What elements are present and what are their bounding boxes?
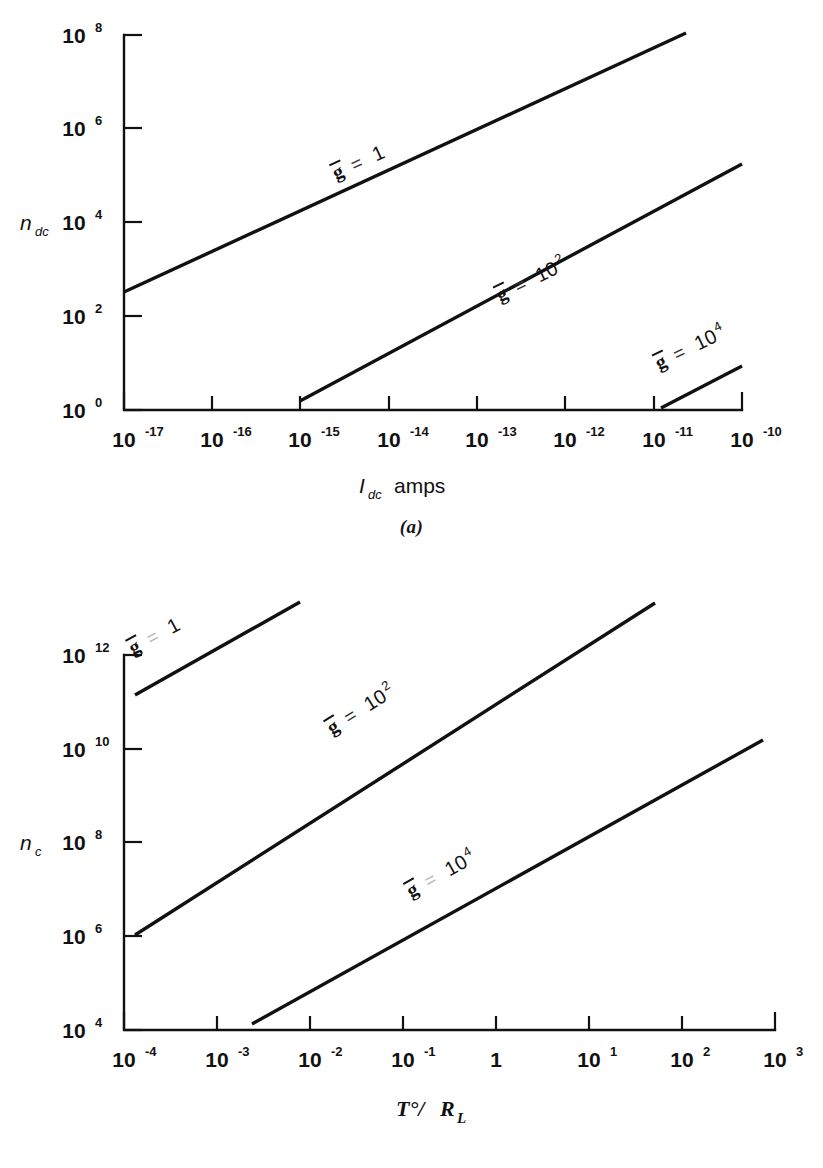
panel-b-ytick-exponent: 4 (95, 1015, 103, 1030)
panel-a-label-equals: = (347, 152, 366, 176)
panel-b-label-equals: = (420, 868, 440, 892)
panel-a-y-axis-title-symbol: n (20, 211, 32, 234)
panel-a-label-equals: = (511, 273, 530, 297)
panel-b-x-axis-title-resistance-subscript: L (456, 1110, 466, 1126)
panel-a-xtick-mantissa: 10 (642, 428, 665, 451)
panel-a-ytick-mantissa: 10 (62, 305, 85, 328)
panel-b-curve-g1 (135, 602, 300, 695)
figure-page: 10 8 10 6 10 4 10 2 10 0 10 -17 10 -16 1… (0, 0, 823, 1168)
panel-b-x-ticklabels: 10 -4 10 -3 10 -2 10 -1 1 10 1 10 2 10 3 (112, 1044, 803, 1071)
panel-a-xtick-exponent: -12 (586, 424, 605, 439)
panel-b-ytick-exponent: 8 (95, 827, 102, 842)
panel-a-ytick-exponent: 6 (95, 113, 102, 128)
panel-b-label-equals: = (340, 704, 361, 728)
panel-a-chart: 10 8 10 6 10 4 10 2 10 0 10 -17 10 -16 1… (0, 0, 823, 560)
panel-a-xtick-mantissa: 10 (730, 428, 753, 451)
panel-a-ytick-exponent: 8 (95, 20, 102, 35)
panel-a-xtick-exponent: -10 (763, 424, 782, 439)
panel-b-xtick-exponent: -4 (145, 1044, 157, 1059)
panel-b-label-value: 1 (163, 613, 183, 638)
panel-b-label-equals: = (143, 625, 163, 649)
panel-b-xtick-mantissa: 10 (298, 1048, 321, 1071)
panel-a-ytick-exponent: 0 (95, 395, 102, 410)
panel-b-x-ticks (124, 1012, 775, 1030)
panel-a-label-equals: = (670, 341, 689, 365)
panel-b-ytick-exponent: 10 (95, 734, 109, 749)
panel-b-xtick-mantissa: 10 (112, 1048, 135, 1071)
panel-a-y-ticks (124, 35, 142, 410)
panel-b-axes (124, 655, 775, 1030)
panel-b-xtick-mantissa: 10 (577, 1048, 600, 1071)
panel-a-x-axis-title-symbol: I (359, 474, 365, 497)
panel-a-curves (124, 33, 742, 408)
panel-a-xtick-mantissa: 10 (465, 428, 488, 451)
panel-a-curve-g1 (124, 33, 686, 292)
panel-b-label-g-symbol: g (402, 877, 422, 902)
panel-a-label-g-symbol: g (651, 349, 670, 374)
panel-a-xtick-exponent: -17 (145, 424, 164, 439)
panel-b-ytick-mantissa: 10 (62, 1019, 85, 1042)
panel-b-x-axis-title-temp: T°/ (396, 1096, 426, 1121)
panel-b-y-ticks (124, 655, 142, 1030)
panel-b-xtick-mantissa: 10 (391, 1048, 414, 1071)
panel-b-y-axis-title: n c (20, 831, 42, 859)
panel-a-ytick-mantissa: 10 (62, 399, 85, 422)
panel-a-x-ticklabels: 10 -17 10 -16 10 -15 10 -14 10 -13 10 -1… (112, 424, 781, 451)
panel-b-ytick-exponent: 12 (95, 640, 109, 655)
panel-b-curves (135, 602, 763, 1024)
panel-b-x-axis-title-resistance: R (439, 1096, 455, 1121)
panel-a-x-ticks (124, 392, 742, 410)
panel-b-ytick-mantissa: 10 (62, 644, 85, 667)
panel-a-y-axis-title: n dc (20, 211, 49, 239)
panel-b-xtick-exponent: -3 (238, 1044, 250, 1059)
panel-b-xtick-mantissa: 10 (670, 1048, 693, 1071)
panel-b-y-axis-title-symbol: n (20, 831, 32, 854)
panel-b-x-axis-title: T°/ R L (396, 1096, 466, 1126)
panel-b-curve-label-g1e4: g = 10 4 (401, 843, 479, 902)
panel-b-curve-label-g1: g = 1 (125, 613, 184, 659)
panel-b-label-g-symbol: g (322, 714, 343, 739)
panel-b-curve-g1e4 (252, 740, 763, 1024)
panel-b-ytick-mantissa: 10 (62, 925, 85, 948)
panel-a-y-ticklabels: 10 8 10 6 10 4 10 2 10 0 (62, 20, 103, 422)
panel-a-label-value: 1 (369, 141, 388, 166)
panel-a-y-axis-title-subscript: dc (35, 224, 49, 239)
panel-a-curve-label-g1: g = 1 (329, 141, 389, 185)
panel-b-xtick-mantissa: 1 (490, 1048, 502, 1071)
panel-a-x-axis-title-unit: amps (394, 474, 445, 497)
panel-a-xtick-exponent: -14 (410, 424, 430, 439)
panel-a-svg: 10 8 10 6 10 4 10 2 10 0 10 -17 10 -16 1… (0, 0, 823, 560)
panel-a-caption: (a) (0, 516, 823, 538)
panel-a-xtick-exponent: -11 (675, 424, 693, 439)
panel-a-xtick-mantissa: 10 (200, 428, 223, 451)
panel-a-ytick-exponent: 4 (95, 207, 103, 222)
panel-a-curve-label-g1e4: g = 10 4 (650, 318, 729, 374)
panel-b-xtick-exponent: 2 (703, 1044, 710, 1059)
panel-a-xtick-mantissa: 10 (553, 428, 576, 451)
panel-a-ytick-mantissa: 10 (62, 117, 85, 140)
panel-b-ytick-mantissa: 10 (62, 831, 85, 854)
panel-a-curve-g1e4 (661, 366, 742, 408)
panel-a-xtick-exponent: -16 (233, 424, 252, 439)
panel-b-xtick-exponent: -1 (424, 1044, 436, 1059)
panel-a-ytick-exponent: 2 (95, 301, 102, 316)
panel-b-svg: 10 12 10 10 10 8 10 6 10 4 10 -4 10 -3 1… (0, 560, 823, 1168)
panel-a-x-axis-title-subscript: dc (368, 487, 382, 502)
panel-b-curve-label-g1e2: g = 10 2 (321, 677, 399, 739)
panel-b-ytick-exponent: 6 (95, 921, 102, 936)
panel-a-ytick-mantissa: 10 (62, 24, 85, 47)
panel-a-xtick-mantissa: 10 (112, 428, 135, 451)
panel-b-xtick-exponent: 3 (796, 1044, 803, 1059)
panel-a-axes (124, 35, 742, 410)
panel-a-ytick-mantissa: 10 (62, 211, 85, 234)
panel-a-xtick-exponent: -15 (321, 424, 340, 439)
panel-b-xtick-mantissa: 10 (763, 1048, 786, 1071)
panel-a-xtick-mantissa: 10 (377, 428, 400, 451)
panel-b-chart: 10 12 10 10 10 8 10 6 10 4 10 -4 10 -3 1… (0, 560, 823, 1168)
panel-a-label-g-symbol: g (329, 159, 348, 184)
panel-b-xtick-exponent: 1 (610, 1044, 617, 1059)
panel-b-y-axis-title-subscript: c (35, 844, 42, 859)
panel-b-y-ticklabels: 10 12 10 10 10 8 10 6 10 4 (62, 640, 109, 1042)
panel-a-x-axis-title: I dc amps (359, 474, 445, 502)
panel-a-label-g-symbol: g (492, 281, 511, 306)
